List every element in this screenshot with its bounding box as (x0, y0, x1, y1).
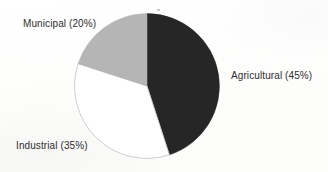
pie-label-municipal: Municipal (20%) (23, 18, 96, 30)
pie-label-agricultural: Agricultural (45%) (231, 70, 312, 82)
pie-chart-figure: Municipal (20%) Agricultural (45%) Indus… (0, 0, 328, 172)
scan-artifact-speck (157, 9, 160, 11)
pie-chart-svg (74, 13, 220, 159)
pie-label-industrial: Industrial (35%) (16, 140, 88, 152)
pie-chart-plot-area (74, 13, 220, 159)
